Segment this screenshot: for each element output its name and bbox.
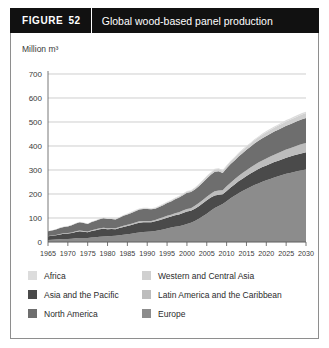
legend-swatch-icon: [28, 271, 37, 280]
legend-swatch-icon: [142, 290, 151, 299]
y-axis-tick-label: 100: [29, 214, 43, 223]
y-axis-tick-label: 0: [38, 238, 43, 247]
legend-swatch-icon: [142, 309, 151, 318]
x-axis-tick-label: 2005: [199, 249, 215, 258]
y-axis-tick-label: 500: [29, 118, 43, 127]
y-axis-tick-label: 600: [29, 94, 43, 103]
figure-header: FIGURE 52 Global wood-based panel produc…: [10, 8, 319, 33]
legend-item: North America: [28, 305, 119, 322]
x-axis-tick-label: 1965: [40, 249, 56, 258]
x-axis-tick-label: 2025: [278, 249, 294, 258]
chart-plot-area: 0100200300400500600700196519701975198019…: [10, 33, 319, 258]
legend-swatch-icon: [28, 290, 37, 299]
x-axis-tick-label: 1990: [139, 249, 155, 258]
y-axis-tick-label: 200: [29, 190, 43, 199]
legend-column-left: Africa Asia and the Pacific North Americ…: [28, 267, 119, 324]
stacked-area-chart: 0100200300400500600700196519701975198019…: [10, 33, 319, 258]
legend-item: Latin America and the Caribbean: [142, 286, 282, 303]
x-axis-tick-label: 2000: [179, 249, 195, 258]
x-axis-tick-label: 1970: [60, 249, 76, 258]
legend-item: Western and Central Asia: [142, 267, 282, 284]
legend-item: Africa: [28, 267, 119, 284]
legend-label: Western and Central Asia: [158, 271, 254, 281]
legend-item: Europe: [142, 305, 282, 322]
x-axis-tick-label: 1985: [119, 249, 135, 258]
x-axis-tick-label: 1995: [159, 249, 175, 258]
legend-label: Africa: [44, 271, 66, 281]
y-axis-tick-label: 300: [29, 166, 43, 175]
figure-container: FIGURE 52 Global wood-based panel produc…: [0, 0, 329, 348]
x-axis-tick-label: 2030: [298, 249, 314, 258]
x-axis-tick-label: 1975: [80, 249, 96, 258]
chart-legend: Africa Asia and the Pacific North Americ…: [10, 267, 319, 329]
y-axis-tick-label: 700: [29, 70, 43, 79]
legend-item: Asia and the Pacific: [28, 286, 119, 303]
x-axis-tick-label: 2015: [238, 249, 254, 258]
figure-title: Global wood-based panel production: [102, 15, 273, 27]
figure-number: 52: [63, 15, 80, 26]
header-divider: [91, 8, 92, 33]
x-axis-tick-label: 1980: [100, 249, 116, 258]
legend-label: Europe: [158, 309, 185, 319]
legend-label: Asia and the Pacific: [44, 290, 119, 300]
figure-label: FIGURE: [10, 15, 63, 26]
legend-label: Latin America and the Caribbean: [158, 290, 282, 300]
x-axis-tick-label: 2010: [219, 249, 235, 258]
legend-swatch-icon: [28, 309, 37, 318]
legend-swatch-icon: [142, 271, 151, 280]
legend-column-right: Western and Central Asia Latin America a…: [142, 267, 282, 324]
legend-label: North America: [44, 309, 98, 319]
x-axis-tick-label: 2020: [258, 249, 274, 258]
y-axis-tick-label: 400: [29, 142, 43, 151]
